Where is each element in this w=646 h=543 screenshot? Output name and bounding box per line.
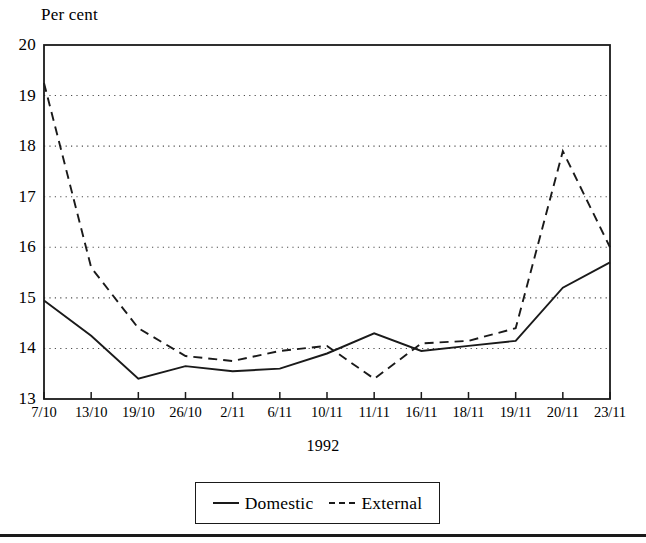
- x-tick-label: 6/11: [267, 404, 292, 421]
- x-tick-label: 10/11: [311, 404, 343, 421]
- x-axis-title: 1992: [0, 437, 646, 455]
- x-tick-label: 18/11: [453, 404, 485, 421]
- x-tick-label: 19/11: [500, 404, 532, 421]
- y-tick-label: 16: [4, 237, 36, 257]
- y-tick-label: 19: [4, 86, 36, 106]
- x-tick-label: 20/11: [547, 404, 579, 421]
- x-tick-label: 23/11: [594, 404, 626, 421]
- legend-label-external: External: [361, 493, 422, 514]
- y-tick-label: 20: [4, 35, 36, 55]
- legend-entry-domestic: Domestic: [213, 493, 314, 514]
- legend-label-domestic: Domestic: [245, 493, 314, 514]
- legend-entry-external: External: [329, 493, 422, 514]
- solid-line-icon: [213, 502, 239, 504]
- data-series-group: [44, 83, 610, 379]
- bottom-divider: [0, 534, 646, 537]
- chart-legend: Domestic External: [195, 482, 440, 524]
- x-tick-label: 19/10: [122, 404, 155, 421]
- series-line-external: [44, 83, 610, 379]
- x-tick-label: 16/11: [405, 404, 437, 421]
- y-tick-label: 17: [4, 187, 36, 207]
- series-line-domestic: [44, 262, 610, 378]
- chart-figure: Per cent 1314151617181920 7/1013/1019/10…: [0, 0, 646, 543]
- x-tick-label: 13/10: [75, 404, 108, 421]
- dashed-line-icon: [329, 502, 355, 504]
- x-tick-label: 2/11: [220, 404, 245, 421]
- plot-area: [0, 0, 646, 543]
- y-tick-label: 14: [4, 338, 36, 358]
- x-tick-label: 7/10: [31, 404, 56, 421]
- y-tick-label: 18: [4, 136, 36, 156]
- y-tick-label: 15: [4, 288, 36, 308]
- x-tick-label: 26/10: [169, 404, 202, 421]
- x-tick-label: 11/11: [358, 404, 389, 421]
- x-axis-ticks: [44, 392, 610, 399]
- gridlines-group: [44, 96, 610, 349]
